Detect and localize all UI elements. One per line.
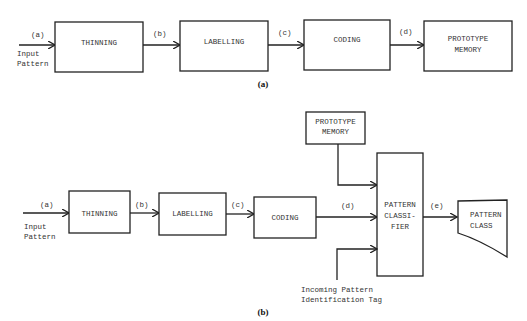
edge-label-b: (b) — [153, 30, 167, 38]
thinning-label: THINNING — [81, 210, 118, 218]
classifier-label: PATTERN — [384, 201, 416, 209]
tag-arrow — [337, 249, 377, 280]
diagram-a: (a) Input Pattern THINNING (b) LABELLING… — [17, 20, 512, 89]
prototype-memory-label: PROTOTYPE — [448, 35, 489, 43]
block-diagram: (a) Input Pattern THINNING (b) LABELLING… — [0, 0, 527, 321]
tag-label: Identification Tag — [301, 296, 382, 304]
tag-label: Incoming Pattern — [301, 286, 373, 294]
coding-block — [304, 20, 390, 70]
edge-label-d: (d) — [341, 202, 355, 210]
caption-b: (b) — [258, 307, 269, 317]
edge-label-c: (c) — [231, 201, 245, 209]
diagram-b: (a) Input Pattern THINNING (b) LABELLING… — [23, 112, 507, 317]
thinning-block — [55, 22, 143, 72]
input-label: Input — [17, 50, 40, 58]
input-label: Pattern — [17, 60, 49, 68]
prototype-memory-label: MEMORY — [454, 46, 482, 54]
input-label: Input — [24, 223, 47, 231]
classifier-label: CLASSI- — [384, 212, 416, 220]
thinning-label: THINNING — [81, 39, 118, 47]
coding-label: CODING — [271, 214, 299, 222]
caption-a: (a) — [258, 79, 269, 89]
edge-label-e: (e) — [430, 202, 444, 210]
edge-label-a-a: (a) — [31, 31, 45, 39]
edge-label-b: (b) — [135, 201, 149, 209]
coding-label: CODING — [333, 36, 361, 44]
edge-label-d: (d) — [399, 28, 413, 36]
edge-label-a: (a) — [40, 201, 54, 209]
prototype-memory-label: MEMORY — [322, 128, 350, 136]
input-label: Pattern — [24, 233, 56, 241]
labelling-block — [180, 21, 268, 71]
pattern-class-label: CLASS — [470, 222, 493, 230]
memory-arrow — [338, 144, 377, 185]
labelling-label: LABELLING — [204, 38, 245, 46]
classifier-label: FIER — [391, 223, 410, 231]
pattern-class-label: PATTERN — [470, 211, 502, 219]
prototype-memory-label: PROTOTYPE — [315, 118, 356, 126]
labelling-label: LABELLING — [172, 210, 213, 218]
edge-label-c: (c) — [278, 29, 292, 37]
